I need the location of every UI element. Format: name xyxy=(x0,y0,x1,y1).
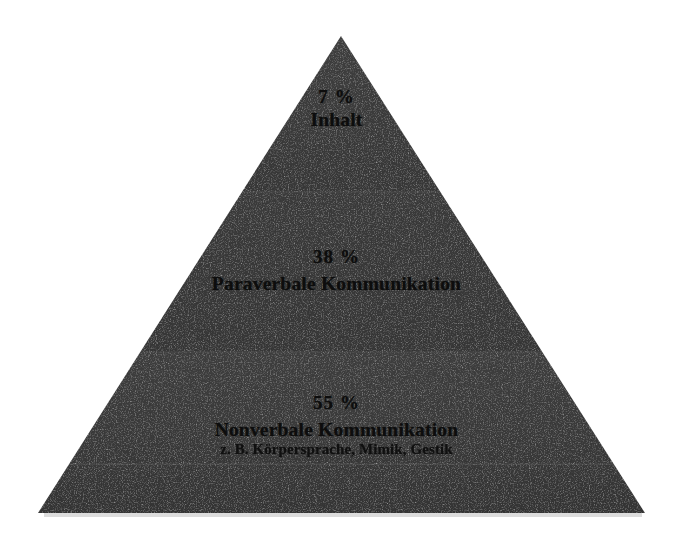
pyramid-band-bottom xyxy=(0,348,673,518)
pyramid-band-top xyxy=(0,0,673,192)
base-shadow xyxy=(44,513,642,517)
pyramid-graphic xyxy=(0,0,673,553)
diagram-canvas: 7 % Inhalt 38 % Paraverbale Kommunikatio… xyxy=(0,0,673,553)
band-divider-upper xyxy=(0,191,673,193)
band-divider-lower xyxy=(0,351,673,353)
pyramid-band-middle xyxy=(0,190,673,352)
scan-seam-line xyxy=(0,464,673,465)
